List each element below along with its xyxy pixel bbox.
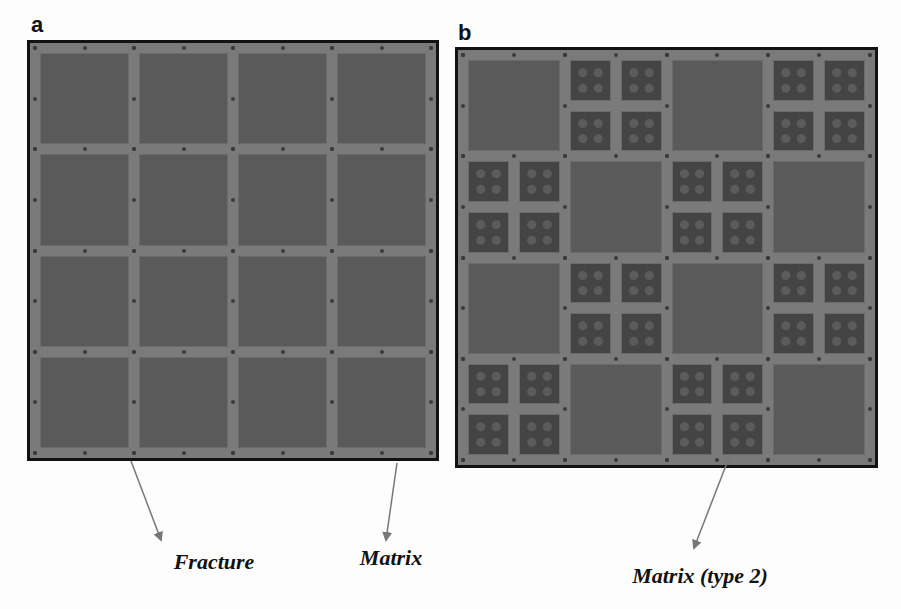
fracture-arrow xyxy=(131,461,161,540)
matrix-label: Matrix xyxy=(360,545,422,571)
matrix-arrow xyxy=(386,463,397,540)
annotation-arrows xyxy=(0,0,901,609)
matrix-type2-arrow xyxy=(694,455,730,548)
fracture-label: Fracture xyxy=(174,549,255,575)
matrix-type2-label: Matrix (type 2) xyxy=(632,563,768,589)
